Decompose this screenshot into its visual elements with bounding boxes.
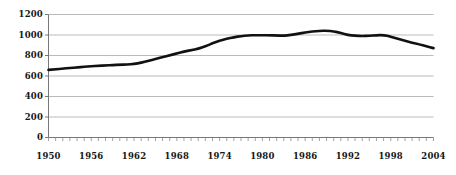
y-axis-label-0: 0 bbox=[6, 133, 43, 142]
x-axis-label-1956: 1956 bbox=[71, 152, 111, 161]
y-axis-label-1200: 1200 bbox=[6, 10, 43, 19]
y-axis-label-600: 600 bbox=[6, 72, 43, 81]
x-axis-label-1992: 1992 bbox=[328, 152, 368, 161]
y-axis-ticks bbox=[45, 15, 49, 138]
x-axis-label-1980: 1980 bbox=[242, 152, 282, 161]
x-axis-label-2004: 2004 bbox=[414, 152, 454, 161]
data-series-line bbox=[49, 31, 434, 70]
x-axis-label-1998: 1998 bbox=[371, 152, 411, 161]
y-axis-label-400: 400 bbox=[6, 92, 43, 101]
x-axis-label-1950: 1950 bbox=[29, 152, 69, 161]
line-chart: 020040060080010001200 195019561962196819… bbox=[0, 0, 456, 175]
x-axis-label-1968: 1968 bbox=[157, 152, 197, 161]
y-axis-label-1000: 1000 bbox=[6, 31, 43, 40]
x-axis-label-1974: 1974 bbox=[200, 152, 240, 161]
series-1-line bbox=[49, 31, 434, 70]
x-axis-label-1962: 1962 bbox=[114, 152, 154, 161]
chart-plot-area bbox=[0, 0, 456, 175]
y-axis-label-800: 800 bbox=[6, 51, 43, 60]
y-axis-label-200: 200 bbox=[6, 113, 43, 122]
x-axis-ticks bbox=[49, 138, 434, 142]
x-axis-label-1986: 1986 bbox=[285, 152, 325, 161]
